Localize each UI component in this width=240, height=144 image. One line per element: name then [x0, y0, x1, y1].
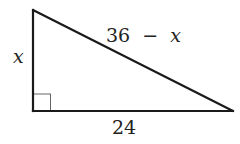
- hypotenuse-operator: −: [142, 24, 158, 46]
- vertical-leg-label: x: [13, 45, 24, 67]
- right-triangle-diagram: x 36 − x 24: [0, 0, 240, 144]
- hypotenuse-number: 36: [106, 24, 130, 46]
- hypotenuse-label: 36 − x: [106, 24, 181, 46]
- hypotenuse-variable: x: [170, 24, 181, 46]
- right-angle-marker: [34, 94, 51, 111]
- horizontal-leg-label: 24: [112, 116, 136, 138]
